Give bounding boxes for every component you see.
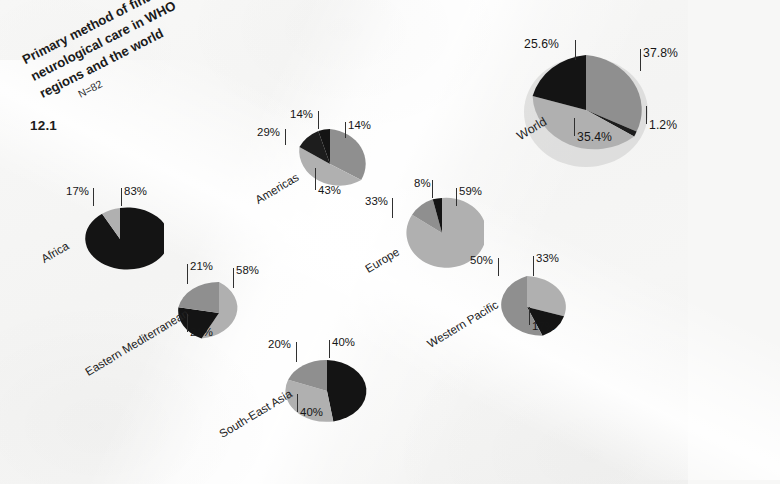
sea-leader-40-top: [329, 340, 330, 358]
world-leader-1_2: [646, 106, 647, 124]
south-east-asia-pie-graphic: [284, 358, 370, 426]
africa-leader-17: [93, 188, 94, 206]
europe-pct-33: 33%: [365, 195, 388, 207]
figure-number: 12.1: [30, 118, 57, 133]
wp-leader-50: [498, 258, 499, 276]
sea-slice-40-black: [327, 360, 366, 421]
africa-region-label: Africa: [39, 239, 71, 265]
em-leader-21-top: [187, 264, 188, 284]
africa-pct-17: 17%: [66, 185, 89, 197]
wp-pct-50: 50%: [470, 254, 493, 266]
em-leader-21-bottom: [187, 314, 188, 332]
americas-pct-43: 43%: [318, 184, 341, 196]
south-east-asia-pie-svg: [284, 358, 370, 426]
sea-pct-40-top: 40%: [332, 336, 355, 348]
europe-leader-8: [432, 180, 433, 198]
world-leader-25_6: [575, 40, 576, 60]
world-pie-svg: [522, 52, 650, 168]
eastern-mediterranean-region-label: Eastern Mediterranean: [83, 306, 191, 378]
europe-pct-59: 59%: [459, 185, 482, 197]
world-pct-35_4: 35.4%: [577, 130, 612, 144]
americas-leader-29: [285, 129, 286, 145]
sea-pct-20: 20%: [268, 338, 291, 350]
americas-leader-14-top: [318, 111, 319, 129]
world-leader-37_8: [640, 49, 641, 71]
wp-leader-17: [529, 307, 530, 325]
europe-leader-59: [456, 188, 457, 206]
em-leader-58: [233, 268, 234, 288]
africa-pct-83: 83%: [124, 185, 147, 197]
pie-chart-world: World 25.6% 37.8% 1.2% 35.4%: [520, 32, 688, 182]
world-pie-graphic: [522, 52, 650, 168]
em-pct-21-bottom: 21%: [190, 326, 213, 338]
south-east-asia-region-label: South-East Asia: [217, 386, 294, 440]
pie-chart-western-pacific: Western Pacific 50% 33% 17%: [440, 252, 610, 372]
em-pct-21-top: 21%: [190, 260, 213, 272]
pie-chart-south-east-asia: South-East Asia 20% 40% 40%: [258, 336, 428, 456]
europe-leader-33: [392, 198, 393, 218]
figure-title: Primary method of financing neurological…: [19, 0, 293, 117]
world-pct-1_2: 1.2%: [649, 118, 677, 132]
americas-pct-29: 29%: [257, 126, 280, 138]
americas-leader-43: [315, 168, 316, 190]
wp-pct-33: 33%: [536, 252, 559, 264]
wp-leader-33: [533, 256, 534, 276]
sea-pct-40-bottom: 40%: [300, 406, 323, 418]
world-pct-25_6: 25.6%: [524, 37, 559, 51]
world-pct-37_8: 37.8%: [643, 46, 678, 60]
africa-leader-83: [121, 188, 122, 206]
world-leader-35_4: [574, 118, 575, 136]
sea-leader-40-bottom: [297, 394, 298, 412]
americas-pct-14-top: 14%: [290, 108, 313, 120]
em-pct-58: 58%: [236, 264, 259, 276]
americas-pct-14-right: 14%: [348, 119, 371, 131]
wp-pct-17: 17%: [532, 320, 555, 332]
europe-region-label: Europe: [363, 245, 402, 275]
sea-leader-20: [296, 342, 297, 362]
europe-pct-8: 8%: [414, 177, 431, 189]
americas-leader-14-right: [345, 122, 346, 138]
